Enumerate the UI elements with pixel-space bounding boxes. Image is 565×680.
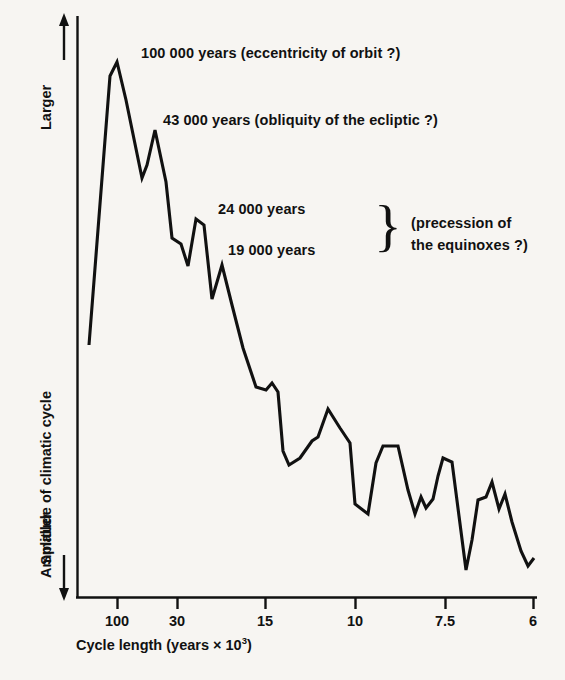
- x-axis-tick-label-100: 100: [105, 613, 129, 629]
- x-axis-title-main: Cycle length (years × 10: [76, 637, 242, 653]
- annotation-precession-label: (precession of the equinoxes ?): [411, 212, 528, 257]
- smaller-down-arrow-icon: [59, 555, 69, 601]
- curly-brace-icon: }: [374, 197, 402, 255]
- spectral-analysis-figure: 100 000 years (eccentricity of orbit ?) …: [0, 0, 565, 680]
- larger-up-arrow-icon: [59, 13, 69, 60]
- chart-canvas: [0, 0, 565, 680]
- x-axis-tick-label-15: 15: [257, 613, 273, 629]
- y-axis-smaller-label: Smaller: [38, 513, 54, 565]
- x-axis-title-tail: ): [247, 637, 252, 653]
- annotation-eccentricity: 100 000 years (eccentricity of orbit ?): [141, 44, 400, 62]
- annotation-precession-line2: the equinoxes ?): [411, 234, 528, 256]
- x-axis-tick-label-10: 10: [347, 613, 363, 629]
- amplitude-spectrum-curve: [89, 62, 534, 570]
- x-axis-tick-label-30: 30: [169, 613, 185, 629]
- x-axis-ticks: [118, 598, 534, 609]
- annotation-precession-line1: (precession of: [411, 212, 528, 234]
- annotation-precession-19000: 19 000 years: [228, 241, 315, 259]
- x-axis-tick-label-7.5: 7.5: [435, 613, 455, 629]
- annotation-precession-24000: 24 000 years: [218, 200, 305, 218]
- annotation-obliquity: 43 000 years (obliquity of the ecliptic …: [163, 111, 438, 129]
- x-axis-tick-label-6: 6: [529, 613, 537, 629]
- x-axis-title: Cycle length (years × 103): [76, 637, 252, 653]
- y-axis-larger-label: Larger: [38, 85, 54, 130]
